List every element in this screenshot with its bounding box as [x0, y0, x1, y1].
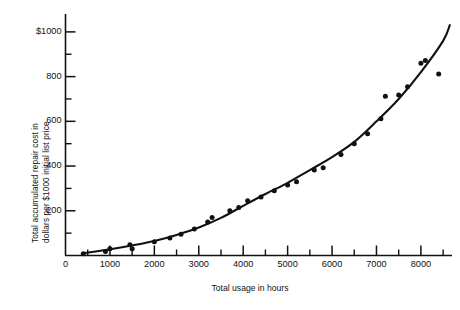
x-tick-label: 2000	[134, 259, 174, 269]
fitted-curve	[83, 25, 450, 253]
y-tick-label: 600	[46, 115, 61, 125]
data-points	[81, 58, 441, 256]
data-point	[258, 194, 263, 199]
y-axis-title-line2: dollars per $1000 initial list price	[41, 121, 51, 243]
x-tick-label: 7000	[356, 259, 396, 269]
data-point	[418, 61, 423, 66]
x-tick-label: 4000	[223, 259, 263, 269]
data-point	[227, 208, 232, 213]
data-point	[179, 232, 184, 237]
data-point	[152, 239, 157, 244]
data-point	[205, 219, 210, 224]
y-axis-title-line1: Total accumulated repair cost in	[30, 123, 40, 243]
data-point	[167, 236, 172, 241]
y-tick-label: 400	[46, 160, 61, 170]
data-point	[365, 131, 370, 136]
data-point	[236, 205, 241, 210]
data-point	[294, 179, 299, 184]
data-point	[192, 227, 197, 232]
data-point	[321, 165, 326, 170]
data-point	[285, 183, 290, 188]
data-point	[396, 92, 401, 97]
data-point	[338, 152, 343, 157]
data-point	[312, 168, 317, 173]
data-point	[352, 141, 357, 146]
y-tick-label: $1000	[36, 26, 62, 36]
x-tick-label: 3000	[179, 259, 219, 269]
x-tick-label: 0	[46, 259, 86, 269]
data-point	[130, 246, 135, 251]
axes-group	[65, 14, 452, 256]
data-point	[436, 71, 441, 76]
data-point	[107, 246, 112, 251]
x-tick-label: 6000	[312, 259, 352, 269]
x-tick-label: 5000	[268, 259, 308, 269]
x-tick-label: 8000	[401, 259, 441, 269]
chart-figure: Total accumulated repair cost in dollars…	[0, 0, 460, 310]
data-point	[383, 94, 388, 99]
data-point	[210, 215, 215, 220]
data-point	[81, 251, 86, 256]
data-point	[378, 116, 383, 121]
x-axis-title: Total usage in hours	[0, 283, 460, 293]
y-tick-marks	[66, 32, 76, 233]
data-point	[423, 58, 428, 63]
data-point	[103, 249, 108, 254]
x-tick-label: 1000	[90, 259, 130, 269]
data-point	[245, 198, 250, 203]
x-tick-marks	[88, 246, 443, 256]
data-point	[405, 84, 410, 89]
y-tick-label: 200	[46, 205, 61, 215]
data-point	[272, 188, 277, 193]
y-tick-label: 800	[46, 71, 61, 81]
